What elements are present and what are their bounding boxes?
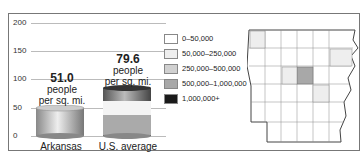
map-legend: 0–50,000 50,000–250,000 250,000–500,000 …	[164, 32, 247, 107]
y-tick-150: 150	[13, 46, 26, 55]
y-tick-0: 0	[13, 131, 17, 140]
arkansas-bar	[35, 105, 87, 141]
legend-swatch	[164, 49, 178, 59]
legend-swatch	[164, 94, 178, 104]
legend-swatch	[164, 79, 178, 89]
us-value-label: 79.6 people per sq. mi.	[102, 52, 154, 87]
x-label-arkansas: Arkansas	[33, 141, 89, 152]
arkansas-county-map	[247, 26, 359, 144]
legend-swatch	[164, 64, 178, 74]
y-tick-200: 200	[13, 18, 26, 27]
arkansas-value-label: 51.0 people per sq. mi.	[37, 71, 87, 106]
us-average-bar	[102, 85, 154, 141]
chart-frame: 200 150 100 50 0 51.0 people per sq. mi.…	[8, 13, 360, 151]
legend-swatch	[164, 34, 178, 44]
y-tick-100: 100	[13, 74, 26, 83]
x-label-us: U.S. average	[97, 141, 159, 152]
gridline	[31, 23, 166, 24]
y-tick-50: 50	[13, 103, 22, 112]
